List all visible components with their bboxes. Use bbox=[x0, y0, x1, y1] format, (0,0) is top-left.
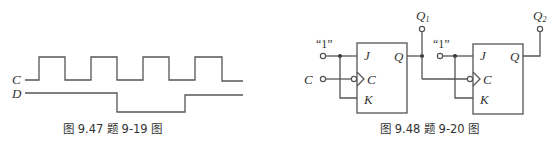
ff2-q-wire bbox=[523, 32, 540, 56]
timing-diagram: C D 图 9.47 题 9-19 图 bbox=[11, 57, 243, 136]
flip-flop-1: J C K Q bbox=[351, 43, 407, 113]
q1-output-label: Q1 bbox=[416, 8, 429, 24]
signal-label-c: C bbox=[12, 72, 21, 87]
figure-caption-9-47: 图 9.47 题 9-19 图 bbox=[63, 122, 162, 136]
data-waveform-d bbox=[25, 93, 243, 112]
ff1-const-terminal-icon bbox=[320, 53, 325, 58]
signal-label-d: D bbox=[11, 86, 22, 101]
clock-input-terminal-icon bbox=[320, 76, 325, 81]
ff2-pin-c: C bbox=[483, 72, 492, 87]
clock-waveform-c bbox=[25, 57, 243, 81]
ff1-pin-k: K bbox=[363, 92, 374, 107]
q1-output-terminal-icon bbox=[419, 26, 424, 31]
ff1-const-input-label: “1” bbox=[316, 37, 333, 51]
clock-input-label: C bbox=[304, 72, 313, 87]
q2-output-label: Q2 bbox=[533, 8, 546, 24]
ff1-pin-q: Q bbox=[394, 49, 404, 64]
ff2-pin-q: Q bbox=[510, 49, 520, 64]
flip-flop-2: J C K Q bbox=[467, 44, 523, 114]
jk-circuit: J C K Q “1” C Q1 J C K Q bbox=[304, 8, 546, 136]
figure-caption-9-48: 图 9.48 题 9-20 图 bbox=[380, 122, 479, 136]
q2-output-terminal-icon bbox=[537, 26, 542, 31]
ff2-clock-bubble-icon bbox=[467, 76, 472, 81]
ff1-pin-c: C bbox=[367, 72, 376, 87]
ff2-const-input-label: “1” bbox=[433, 37, 450, 51]
ff2-pin-k: K bbox=[479, 92, 490, 107]
ff1-clock-bubble-icon bbox=[351, 76, 356, 81]
ff2-const-terminal-icon bbox=[437, 53, 442, 58]
figures-canvas: C D 图 9.47 题 9-19 图 J C K Q “1” C bbox=[0, 0, 553, 146]
